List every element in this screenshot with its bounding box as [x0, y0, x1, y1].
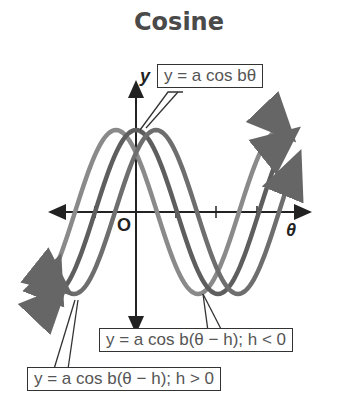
theta-axis-label: θ — [286, 220, 296, 241]
origin-label: O — [117, 215, 131, 236]
y-axis-label: y — [140, 66, 150, 87]
callout-h-negative: y = a cos b(θ − h); h < 0 — [99, 328, 293, 352]
callout-h-positive: y = a cos b(θ − h); h > 0 — [27, 367, 221, 391]
callout-base: y = a cos bθ — [157, 64, 263, 88]
